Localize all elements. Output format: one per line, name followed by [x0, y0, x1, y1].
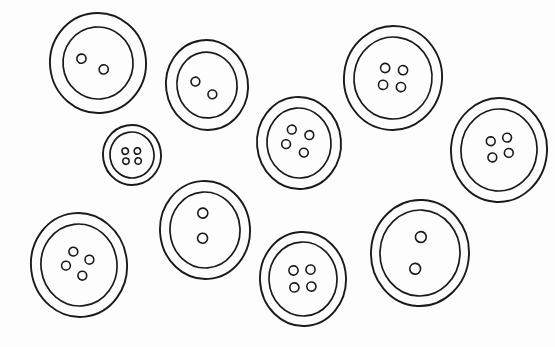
- buttons-illustration: [0, 0, 555, 347]
- button-hole-3: [290, 283, 300, 293]
- button-hole-1: [415, 231, 426, 242]
- button-hole-2: [398, 65, 408, 75]
- button-hole-1: [197, 208, 208, 219]
- button-hole-1: [76, 54, 86, 64]
- button-hole-1: [190, 77, 200, 87]
- button-hole-4: [307, 282, 317, 292]
- button-hole-4: [77, 271, 87, 281]
- button-hole-2: [85, 255, 95, 265]
- button-hole-1: [486, 136, 496, 146]
- button-hole-2: [306, 265, 316, 275]
- button-hole-3: [61, 261, 71, 271]
- button-hole-2: [409, 263, 420, 274]
- button-hole-1: [380, 63, 390, 73]
- button-hole-2: [197, 233, 208, 244]
- button-hole-2: [305, 130, 315, 140]
- button-hole-1: [289, 266, 299, 276]
- button-hole-4: [299, 148, 309, 158]
- button-hole-3: [378, 80, 388, 90]
- button-hole-1: [122, 147, 129, 154]
- button-hole-3: [488, 153, 498, 163]
- button-hole-1: [287, 125, 297, 135]
- button-hole-4: [134, 157, 141, 164]
- button-hole-2: [134, 147, 141, 154]
- button-hole-1: [68, 247, 78, 257]
- button-hole-2: [99, 64, 109, 74]
- button-hole-4: [504, 148, 514, 158]
- button-hole-4: [396, 82, 406, 92]
- button-hole-3: [122, 157, 129, 164]
- button-hole-3: [281, 139, 291, 149]
- button-hole-2: [502, 133, 512, 143]
- button-hole-2: [207, 89, 217, 99]
- drawing-canvas: [0, 0, 555, 347]
